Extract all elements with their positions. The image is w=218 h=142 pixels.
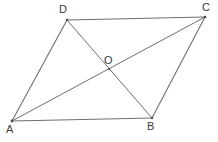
vertex-dot-B — [151, 117, 153, 119]
vertex-dot-O — [108, 68, 110, 70]
geometry-figure-canvas: A B C D O — [0, 0, 218, 142]
vertex-dot-D — [66, 19, 69, 22]
vertex-label-A: A — [6, 124, 13, 135]
parallelogram-diagram — [0, 0, 218, 142]
vertex-label-C: C — [202, 2, 210, 13]
side-AB-line — [12, 118, 152, 121]
vertex-dot-A — [11, 120, 14, 123]
side-BC-line — [152, 17, 205, 118]
vertex-dot-C — [204, 16, 207, 19]
vertex-label-D: D — [59, 4, 67, 15]
vertex-label-B: B — [147, 121, 154, 132]
vertex-label-O: O — [104, 55, 113, 66]
side-CD-line — [67, 17, 205, 20]
